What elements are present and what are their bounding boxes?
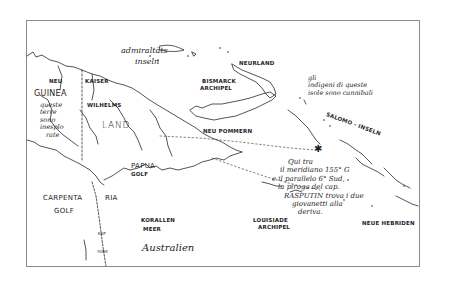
label-land: LAND xyxy=(102,121,130,130)
label-carpentaria-golf: GOLF xyxy=(54,208,74,215)
label-guinea: GUINEA xyxy=(34,90,67,98)
label-kap: KAP xyxy=(98,232,106,236)
label-admiralitats: admiraltäts xyxy=(121,47,168,55)
note-cannibals: gli indigeni di queste isole sono cannib… xyxy=(308,75,373,97)
label-neu: NEU xyxy=(49,79,62,85)
label-papua: PAPUA xyxy=(131,163,155,170)
label-neurland: NEURLAND xyxy=(239,61,275,67)
label-neu-pommern: NEU POMMERN xyxy=(203,129,252,135)
label-bismarck: BISMARCK xyxy=(202,79,236,85)
label-kaiser: KAISER xyxy=(85,79,109,85)
label-york: YORK xyxy=(97,250,108,254)
new-pommern-coastline xyxy=(190,92,276,120)
note-unexplored: queste terre sono inesplo rate xyxy=(40,102,64,139)
note-rasputin: Qui tra il meridiano 155° G e il paralle… xyxy=(266,158,364,217)
map-drawing xyxy=(0,0,449,288)
label-korallen: KORALLEN xyxy=(141,218,175,224)
label-louisiade-archipel: ARCHIPEL xyxy=(258,225,290,231)
label-archipel: ARCHIPEL xyxy=(200,86,232,92)
neurland-coastline xyxy=(232,64,276,98)
label-ria: RIA xyxy=(105,195,118,202)
piroga-marker-icon: ✱ xyxy=(314,144,322,154)
label-neue-hebriden: NEUE HEBRIDEN xyxy=(362,221,415,227)
label-inseln: inseln xyxy=(135,58,159,66)
label-wilhelms: WILHELMS xyxy=(87,103,122,109)
label-meer: MEER xyxy=(143,227,161,233)
label-carpenta: CARPENTA xyxy=(43,195,82,202)
label-louisiade: LOUISIADE xyxy=(253,218,288,224)
label-papua-golf: GOLF xyxy=(131,172,148,178)
label-australien: Australien xyxy=(142,243,194,253)
